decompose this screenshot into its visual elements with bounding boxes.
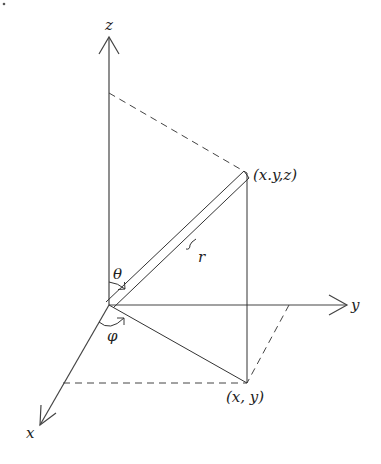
z-axis-label: z bbox=[104, 16, 113, 34]
theta-label: θ bbox=[113, 265, 122, 283]
radius-brace bbox=[186, 239, 196, 249]
y-axis-label: y bbox=[350, 296, 360, 314]
theta-arc-icon bbox=[109, 282, 125, 289]
point-2d-label: (x, y) bbox=[226, 388, 264, 406]
xy-projection-line bbox=[109, 305, 247, 383]
spherical-coordinates-diagram: z y x r θ φ (x.y,z) (x, y) bbox=[0, 0, 381, 464]
radius-vector bbox=[106, 171, 249, 308]
phi-arc-icon bbox=[99, 318, 124, 326]
x-axis-label: x bbox=[26, 424, 35, 442]
point-3d-label: (x.y,z) bbox=[253, 166, 297, 184]
dashed-z-projection bbox=[109, 93, 247, 173]
y-axis bbox=[109, 295, 347, 315]
dashed-y-projection bbox=[247, 305, 289, 383]
stray-dot bbox=[3, 3, 6, 6]
x-axis bbox=[40, 305, 109, 425]
radius-label: r bbox=[198, 248, 206, 266]
phi-label: φ bbox=[107, 327, 118, 345]
